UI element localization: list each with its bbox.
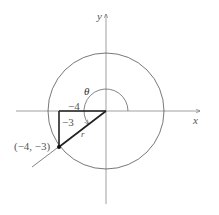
point-marker bbox=[57, 145, 61, 149]
y-axis-label: y bbox=[97, 11, 102, 22]
horizontal-leg-label: −4 bbox=[68, 101, 80, 112]
angle-label: θ bbox=[84, 86, 89, 97]
point-label: (−4, −3) bbox=[14, 141, 50, 152]
vertical-leg-label: −3 bbox=[62, 117, 74, 128]
x-axis-label: x bbox=[193, 115, 198, 126]
hypotenuse-label: r bbox=[81, 130, 85, 139]
reference-angle-diagram bbox=[0, 0, 219, 215]
